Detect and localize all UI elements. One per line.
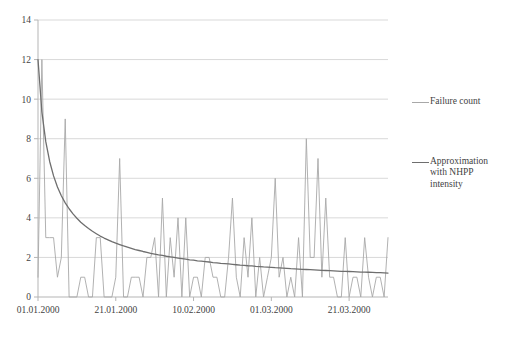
y-tick-label: 8 <box>26 134 31 144</box>
legend-swatch-approximation <box>412 162 429 163</box>
x-tick-label: 21.03.2000 <box>328 305 371 315</box>
x-tick-label: 01.01.2000 <box>17 305 60 315</box>
y-tick-label: 12 <box>22 55 32 65</box>
x-tick-label: 10.02.2000 <box>172 305 215 315</box>
legend-label-approximation: Approximation with NHPP intensity <box>430 156 488 191</box>
legend-entry-failure-count: Failure count <box>412 96 515 108</box>
y-tick-label: 2 <box>26 253 31 263</box>
y-tick-label: 0 <box>26 292 31 302</box>
gridlines <box>38 20 388 257</box>
y-tick-label: 4 <box>26 213 31 223</box>
y-tick-label: 10 <box>22 95 32 105</box>
x-tick-label: 01.03.2000 <box>250 305 293 315</box>
legend-swatch-failure-count <box>412 102 429 103</box>
y-tick-label: 6 <box>26 174 31 184</box>
y-tick-label: 14 <box>22 15 32 25</box>
chart-figure: 02468101214 01.01.200021.01.200010.02.20… <box>0 0 517 341</box>
series-approximation <box>38 60 388 273</box>
chart-legend: Failure count Approximation with NHPP in… <box>412 96 515 238</box>
legend-entry-approximation: Approximation with NHPP intensity <box>412 156 515 191</box>
x-tick-labels: 01.01.200021.01.200010.02.200001.03.2000… <box>17 297 371 315</box>
series-line <box>38 60 388 273</box>
legend-label-failure-count: Failure count <box>430 96 480 108</box>
x-tick-label: 21.01.2000 <box>94 305 137 315</box>
y-tick-labels: 02468101214 <box>22 15 39 302</box>
